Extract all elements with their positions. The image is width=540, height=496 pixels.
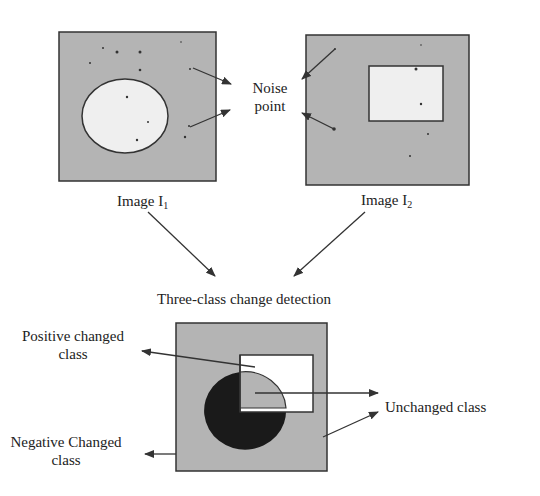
noise-label-line2: point (240, 97, 300, 115)
noise-point-label: Noise point (240, 79, 300, 115)
image1-panel (59, 32, 216, 181)
diagram-canvas (0, 0, 540, 496)
diagram-title: Three-class change detection (157, 290, 331, 308)
image2-panel (306, 35, 469, 185)
result-panel (176, 323, 327, 471)
unchanged-label: Unchanged class (385, 398, 486, 416)
image2-label: Image I2 (361, 191, 412, 209)
image1-label: Image I1 (117, 192, 168, 210)
positive-changed-label: Positive changed class (8, 327, 138, 363)
negative-changed-label: Negative Changed class (0, 433, 132, 469)
merge-arrows (148, 212, 365, 276)
noise-label-line1: Noise (240, 79, 300, 97)
